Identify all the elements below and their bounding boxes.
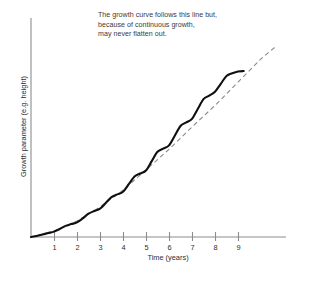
growth-solid-curve [31,71,244,237]
chart-annotation: The growth curve follows this line but, … [98,11,258,40]
x-axis-tick-labels: 1 2 3 4 5 6 7 8 9 [52,243,240,252]
growth-curve-figure: 1 2 3 4 5 6 7 8 9 The growth curve follo… [0,0,318,282]
annotation-line-2: because of continuous growth, [98,21,258,31]
chart-plot-area: 1 2 3 4 5 6 7 8 9 [0,0,318,282]
x-tick-label-9: 9 [236,243,240,252]
x-tick-label-5: 5 [144,243,148,252]
trend-dashed-line [31,47,275,237]
x-tick-label-1: 1 [52,243,56,252]
x-tick-label-4: 4 [121,243,125,252]
annotation-line-3: may never flatten out. [98,30,258,40]
x-tick-label-7: 7 [190,243,194,252]
x-tick-label-3: 3 [98,243,102,252]
x-tick-label-6: 6 [167,243,171,252]
x-axis-title: Time (years) [0,253,318,262]
annotation-line-1: The growth curve follows this line but, [98,11,258,21]
y-axis-title: Growth parameter (e.g. height) [19,52,28,202]
x-tick-label-8: 8 [213,243,217,252]
x-tick-label-2: 2 [75,243,79,252]
